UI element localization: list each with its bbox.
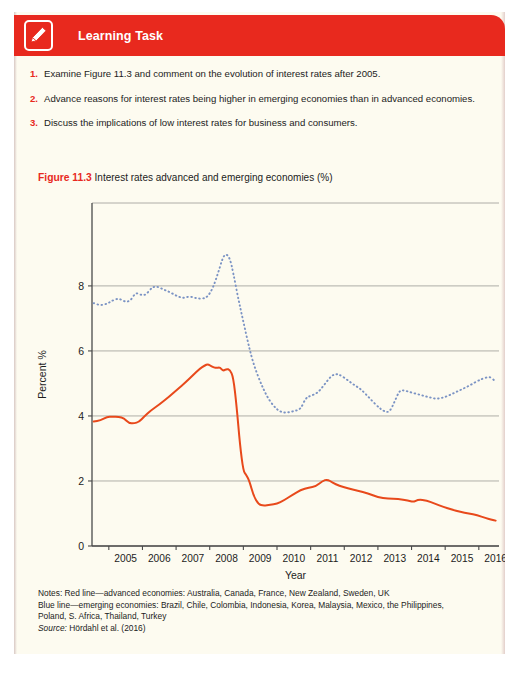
svg-text:2008: 2008: [215, 553, 238, 564]
task-number: 1.: [30, 67, 44, 80]
svg-text:2011: 2011: [317, 553, 339, 564]
svg-text:Year: Year: [285, 569, 307, 581]
svg-text:2015: 2015: [451, 553, 474, 564]
task-item: 1. Examine Figure 11.3 and comment on th…: [30, 67, 495, 80]
svg-text:2013: 2013: [383, 553, 406, 564]
chart-gridlines: [92, 203, 499, 546]
svg-text:6: 6: [78, 345, 84, 357]
task-text: Discuss the implications of low interest…: [44, 116, 358, 129]
svg-text:2005: 2005: [114, 553, 137, 564]
svg-text:2012: 2012: [350, 553, 373, 564]
svg-text:0: 0: [78, 540, 84, 552]
header-title: Learning Task: [78, 29, 163, 43]
learning-task-page: Learning Task 1. Examine Figure 11.3 and…: [14, 12, 505, 654]
svg-text:2: 2: [78, 475, 84, 487]
svg-text:2016: 2016: [484, 553, 505, 564]
task-number: 3.: [30, 116, 44, 129]
task-text: Advance reasons for interest rates being…: [44, 92, 475, 105]
notes-line-3: Poland, S. Africa, Thailand, Turkey: [38, 611, 493, 623]
notes-source: Source: Hördahl et al. (2016): [38, 623, 493, 635]
pencil-edit-icon: [24, 20, 53, 51]
svg-text:2010: 2010: [282, 553, 305, 564]
interest-rates-chart: 0246820052006200720082009201020112012201…: [14, 182, 505, 582]
task-list: 1. Examine Figure 11.3 and comment on th…: [30, 67, 495, 141]
task-text: Examine Figure 11.3 and comment on the e…: [44, 67, 380, 80]
svg-text:Percent %: Percent %: [36, 350, 48, 398]
svg-text:2009: 2009: [249, 553, 272, 564]
svg-text:8: 8: [78, 280, 84, 292]
source-text: Hördahl et al. (2016): [67, 623, 146, 633]
task-number: 2.: [30, 92, 44, 105]
notes-line-2: Blue line—emerging economies: Brazil, Ch…: [38, 600, 493, 612]
svg-text:2006: 2006: [148, 553, 171, 564]
learning-task-header: Learning Task: [14, 15, 505, 56]
task-item: 3. Discuss the implications of low inter…: [30, 116, 495, 129]
svg-text:2007: 2007: [182, 553, 205, 564]
notes-line-1: Notes: Red line—advanced economies: Aust…: [38, 588, 493, 600]
task-item: 2. Advance reasons for interest rates be…: [30, 92, 495, 105]
svg-text:2014: 2014: [417, 553, 440, 564]
svg-text:4: 4: [78, 410, 84, 422]
figure-notes: Notes: Red line—advanced economies: Aust…: [38, 588, 493, 634]
source-label: Source:: [38, 623, 67, 633]
chart-svg: 0246820052006200720082009201020112012201…: [14, 182, 505, 582]
